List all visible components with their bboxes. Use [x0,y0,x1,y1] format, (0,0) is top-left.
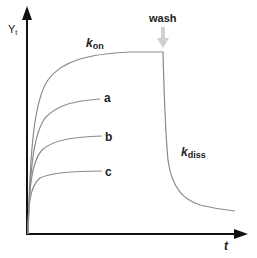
x-axis-label: t [224,239,229,253]
kon-label: kon [86,36,104,51]
y-axis-arrow-icon [22,6,32,20]
curve-a-label: a [104,91,111,105]
curve-c [28,171,102,234]
y-axis-label: Yt [8,23,17,36]
kinetics-diagram: Yt t wash kon kdiss a b c [0,0,257,258]
kdiss-label: kdiss [181,145,206,160]
curves [28,52,235,234]
wash-label: wash [148,12,177,24]
axes [22,6,248,239]
curve-a [28,99,100,234]
curve-b-label: b [105,130,112,144]
curve-b [28,136,102,234]
curve-c-label: c [105,165,112,179]
wash-arrow-icon [157,27,169,48]
curve-kon [28,52,235,234]
x-axis-arrow-icon [234,229,248,239]
